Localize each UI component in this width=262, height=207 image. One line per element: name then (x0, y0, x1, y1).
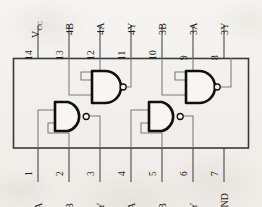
pin-number-13: 13 (55, 50, 65, 60)
wire-1a-to-gate1-input (38, 110, 55, 148)
gate-2-inversion-bubble (177, 114, 183, 120)
gate-2-nand-symbol (149, 102, 183, 131)
gate-3-inversion-bubble (214, 84, 220, 90)
pin-name-4b: 4B (64, 23, 75, 35)
bottom-pin-leads (38, 148, 224, 182)
pin-name-1b: 1B (64, 203, 75, 207)
gate-3-nand-symbol (186, 71, 220, 103)
pin-number-8: 8 (210, 55, 220, 60)
wire-3b-to-gate3-input (162, 58, 186, 95)
wire-2a-to-gate2-input (131, 110, 149, 148)
wire-gate1-output-to-1y (88, 116, 100, 148)
pin-name-1y: 1Y (95, 202, 106, 207)
wire-gate3-output-to-3y (219, 58, 231, 87)
pin-name-3y: 3Y (219, 22, 230, 35)
pin-name-2y: 2Y (188, 202, 199, 207)
pin-name-4y: 4Y (126, 22, 137, 35)
gate-4-nand-symbol (92, 71, 126, 103)
gate-1-inversion-bubble (83, 114, 89, 120)
pin-number-9: 9 (179, 55, 189, 60)
pin-name-3b: 3B (157, 23, 168, 35)
pin-number-6: 6 (179, 171, 189, 176)
wire-gate4-output-to-4y (125, 58, 131, 87)
pin-name-3a: 3A (188, 22, 199, 35)
pin-number-5: 5 (148, 171, 158, 176)
wire-gate2-output-to-2y (182, 116, 193, 148)
pin-number-14: 14 (24, 50, 34, 60)
pin-number-10: 10 (148, 50, 158, 60)
gate-1-nand-symbol (55, 102, 89, 131)
gate-4-inversion-bubble (120, 84, 126, 90)
pin-name-vcc: VCC (30, 21, 44, 38)
pin-name-2b: 2B (157, 203, 168, 207)
pin-number-3: 3 (86, 171, 96, 176)
pin-number-7: 7 (210, 171, 220, 176)
pin-name-4a: 4A (95, 22, 106, 35)
pin-number-11: 11 (117, 50, 127, 60)
pin-name-gnd: GND (219, 193, 230, 207)
pin-name-2a: 2A (126, 202, 137, 207)
pin-number-2: 2 (55, 171, 65, 176)
pin-number-12: 12 (86, 50, 96, 60)
pin-name-1a: 1A (33, 202, 44, 207)
pin-number-1: 1 (24, 171, 34, 176)
ic-pinout-diagram: 14 13 12 11 10 9 8 VCC 4B 4A 4Y 3B 3A 3Y… (0, 0, 262, 207)
pin-number-4: 4 (117, 171, 127, 176)
